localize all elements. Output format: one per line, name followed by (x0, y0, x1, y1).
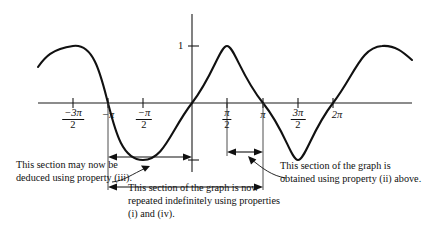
y-axis-label-one: 1 (178, 41, 183, 52)
ticklabel-minus-3pi-over-2: −3π 2 (62, 108, 84, 130)
ticklabel-minus-pi: −π (102, 110, 114, 121)
ticklabel-2pi: 2π (332, 110, 343, 121)
ticklabel-pi: π (260, 110, 265, 121)
ticklabel-minus-pi-over-two: −π 2 (136, 108, 152, 130)
annotation-note-deduced: This section may now be deduced using pr… (16, 159, 140, 185)
annotation-note-property-ii: This section of the graph is obtained us… (280, 160, 422, 186)
sine-graph-figure: 1 −3π 2 −π −π 2 π 2 π 3π 2 2π This secti… (0, 0, 426, 228)
ticklabel-pi-over-two: π 2 (222, 108, 231, 130)
ticklabel-3pi-over-two: 3π 2 (291, 108, 306, 130)
annotation-note-repeated: This section of the graph is now repeate… (128, 182, 280, 221)
measure-arrow-property-ii (227, 149, 263, 156)
